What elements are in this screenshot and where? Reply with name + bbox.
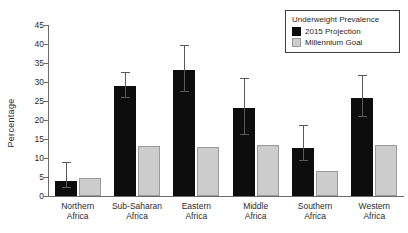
error-bar-cap <box>62 187 71 188</box>
legend-label-millennium-goal: Millennium Goal <box>305 38 362 47</box>
category-label: Sub-SaharanAfrica <box>107 201 166 221</box>
y-tick-label: 0 <box>18 192 44 201</box>
chart-legend: Underweight Prevalence 2015 Projection M… <box>285 10 400 53</box>
bar <box>257 145 279 196</box>
bar <box>114 86 136 196</box>
error-bar-cap <box>240 78 249 79</box>
y-tick-label: 40 <box>18 40 44 49</box>
y-tick-mark <box>44 196 49 197</box>
bar <box>79 178 101 196</box>
error-bar-line <box>244 79 245 135</box>
bar <box>138 146 160 196</box>
category-label: SouthernAfrica <box>285 201 344 221</box>
y-tick-label: 5 <box>18 173 44 182</box>
y-tick-label: 15 <box>18 135 44 144</box>
error-bar-line <box>303 126 304 161</box>
bar <box>316 171 338 196</box>
error-bar-cap <box>299 160 308 161</box>
error-bar-cap <box>299 125 308 126</box>
y-tick-label: 25 <box>18 97 44 106</box>
error-bar-line <box>66 163 67 189</box>
bar-group <box>107 25 166 196</box>
bar <box>197 147 219 196</box>
legend-item-millennium-goal: Millennium Goal <box>292 38 394 47</box>
category-label: NorthernAfrica <box>48 201 107 221</box>
error-bar-cap <box>180 45 189 46</box>
error-bar-line <box>184 46 185 92</box>
error-bar-cap <box>62 162 71 163</box>
bar-group <box>48 25 107 196</box>
legend-label-2015-projection: 2015 Projection <box>305 27 361 36</box>
legend-title: Underweight Prevalence <box>292 15 394 24</box>
legend-item-2015-projection: 2015 Projection <box>292 27 394 36</box>
bar <box>375 145 397 196</box>
bar-group <box>226 25 285 196</box>
category-label: WesternAfrica <box>345 201 404 221</box>
y-tick-label: 20 <box>18 116 44 125</box>
error-bar-cap <box>358 75 367 76</box>
category-label: EasternAfrica <box>167 201 226 221</box>
error-bar-cap <box>358 116 367 117</box>
error-bar-cap <box>180 91 189 92</box>
category-label: MiddleAfrica <box>226 201 285 221</box>
underweight-prevalence-bar-chart: Percentage 051015202530354045 NorthernAf… <box>0 0 408 233</box>
error-bar-line <box>362 76 363 118</box>
error-bar-cap <box>240 134 249 135</box>
error-bar-line <box>125 73 126 98</box>
y-tick-label: 10 <box>18 154 44 163</box>
legend-swatch-gray-icon <box>292 38 301 47</box>
bar-group <box>167 25 226 196</box>
y-axis-title: Percentage <box>6 98 16 147</box>
y-tick-label: 30 <box>18 78 44 87</box>
error-bar-cap <box>121 72 130 73</box>
legend-swatch-black-icon <box>292 27 301 36</box>
y-tick-label: 45 <box>18 21 44 30</box>
error-bar-cap <box>121 97 130 98</box>
x-axis-line <box>48 196 404 197</box>
y-tick-label: 35 <box>18 59 44 68</box>
